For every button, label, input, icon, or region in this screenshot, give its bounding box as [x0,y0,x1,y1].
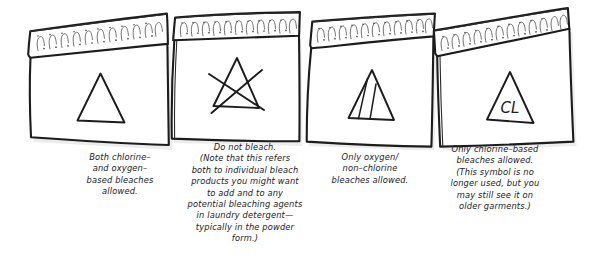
caption-both-chlorine-and-oxygen: Both chlorine– and oxygen– based bleache… [58,152,182,198]
bleach-symbols-figure: .ink { fill:none; stroke:#1c1c1c; stroke… [0,0,595,269]
captions-layer: Both chlorine– and oxygen– based bleache… [0,0,595,269]
caption-only-chlorine-based: Only chlorine–based bleaches allowed. (T… [420,144,570,212]
caption-do-not-bleach: Do not bleach. (Note that this refers bo… [172,142,318,245]
caption-only-oxygen-non-chlorine: Only oxygen/ non–chlorine bleaches allow… [308,152,432,186]
